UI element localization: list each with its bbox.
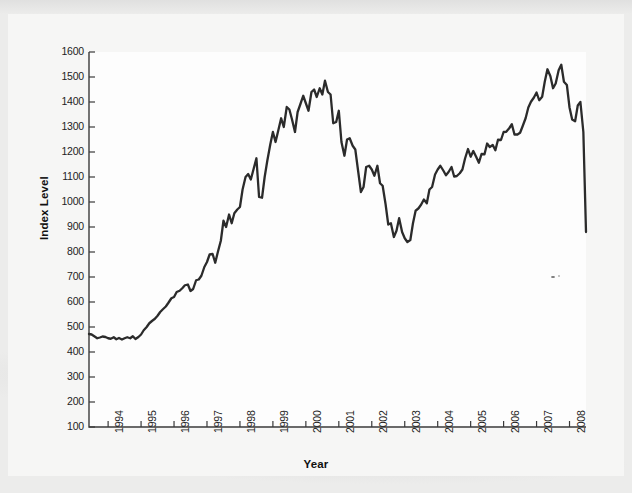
- x-tick-label: 2000: [311, 410, 323, 433]
- y-axis-title: Index Level: [38, 176, 50, 240]
- x-tick-label: 2006: [509, 410, 521, 433]
- x-tick-label: 2003: [410, 410, 422, 433]
- x-tick-label: 2002: [377, 410, 389, 433]
- x-axis-title: Year: [0, 458, 632, 470]
- scan-speck: [551, 276, 555, 278]
- x-tick-label: 1996: [179, 410, 191, 433]
- x-tick-label: 2008: [575, 410, 587, 433]
- x-tick-label: 2005: [476, 410, 488, 433]
- index-level-line-chart: 1600150014001300120011001000900800700600…: [0, 0, 632, 493]
- x-tick-label: 2007: [542, 410, 554, 433]
- scan-speck: [558, 275, 560, 277]
- x-tick-label: 1994: [113, 410, 125, 433]
- x-tick-label: 2001: [344, 410, 356, 433]
- x-tick-label: 1995: [146, 410, 158, 433]
- x-tick-label: 2004: [443, 410, 455, 433]
- x-tick-label: 1997: [212, 410, 224, 433]
- x-axis-tick-labels: 1994199519961997199819992000200120022003…: [0, 0, 632, 493]
- x-tick-label: 1999: [278, 410, 290, 433]
- scanned-page-background: 1600150014001300120011001000900800700600…: [0, 0, 632, 493]
- x-tick-label: 1998: [245, 410, 257, 433]
